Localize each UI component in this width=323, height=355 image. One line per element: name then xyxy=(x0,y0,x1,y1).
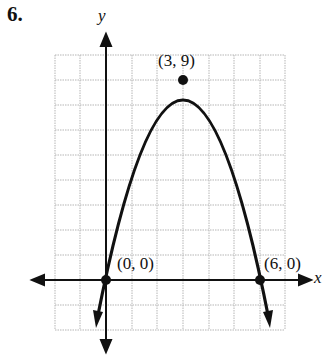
grid xyxy=(55,55,285,330)
x-intercept-label: (6, 0) xyxy=(264,254,301,274)
axes xyxy=(32,34,311,352)
vertex-label: (3, 9) xyxy=(158,51,195,71)
origin-label: (0, 0) xyxy=(117,254,154,274)
